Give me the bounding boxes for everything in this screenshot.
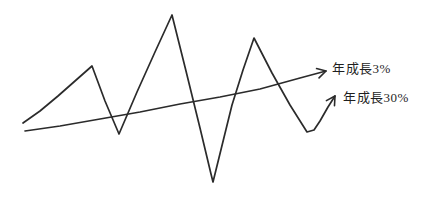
label-annual-growth-30pct: 年成長30% [343, 90, 409, 105]
chart-canvas: 年成長3% 年成長30% [0, 0, 427, 198]
steady-trend-line [25, 71, 326, 131]
volatile-growth-line [23, 15, 335, 182]
series-lines [23, 15, 335, 182]
label-annual-growth-3pct: 年成長3% [332, 61, 391, 76]
